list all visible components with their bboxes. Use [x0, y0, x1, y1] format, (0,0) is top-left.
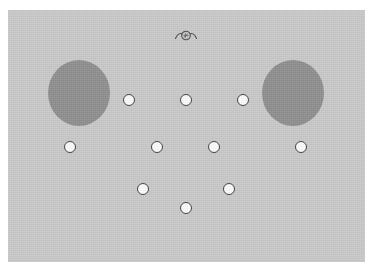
- node-7[interactable]: [295, 141, 307, 153]
- diagram-canvas: [0, 0, 372, 272]
- node-10[interactable]: [180, 202, 192, 214]
- node-8[interactable]: [137, 183, 149, 195]
- right-blob: [262, 60, 324, 126]
- left-blob: [48, 60, 110, 126]
- winged-circle-icon: [173, 28, 199, 44]
- node-2[interactable]: [180, 94, 192, 106]
- node-3[interactable]: [237, 94, 249, 106]
- node-9[interactable]: [223, 183, 235, 195]
- node-4[interactable]: [64, 141, 76, 153]
- node-1[interactable]: [123, 94, 135, 106]
- node-5[interactable]: [151, 141, 163, 153]
- node-6[interactable]: [208, 141, 220, 153]
- diagram-panel: [8, 10, 365, 262]
- winged-circle-marker[interactable]: [173, 28, 199, 44]
